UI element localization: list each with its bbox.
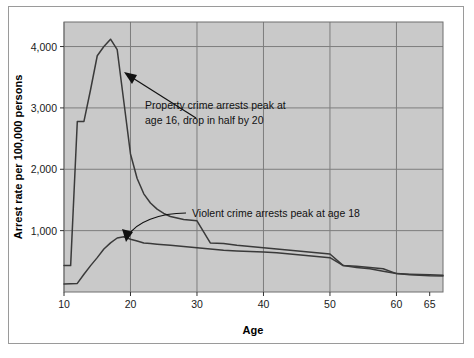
y-tick-label-4000: 4,000 — [31, 41, 57, 53]
x-tick-label-40: 40 — [258, 298, 270, 310]
x-tick-label-30: 30 — [191, 298, 203, 310]
x-tick-label-60: 60 — [391, 298, 403, 310]
y-axis-tick-labels: 1,0002,0003,0004,000 — [31, 41, 64, 237]
y-tick-label-3000: 3,000 — [31, 102, 57, 114]
x-axis-title: Age — [243, 324, 264, 336]
y-tick-label-2000: 2,000 — [31, 163, 57, 175]
x-tick-label-10: 10 — [58, 298, 70, 310]
property-annotation-line1: Property crime arrests peak at — [145, 99, 286, 111]
x-axis-tick-labels: 10203040506065 — [58, 292, 436, 310]
property-annotation-line2: age 16, drop in half by 20 — [145, 114, 264, 126]
violent-annotation-line1: Violent crime arrests peak at age 18 — [192, 207, 360, 219]
y-tick-label-1000: 1,000 — [31, 225, 57, 237]
y-axis-title: Arrest rate per 100,000 persons — [12, 75, 24, 239]
x-tick-label-20: 20 — [125, 298, 137, 310]
x-tick-label-50: 50 — [324, 298, 336, 310]
chart-figure: 1,0002,0003,0004,000 10203040506065 Arre… — [0, 0, 474, 358]
arrest-rate-by-age-chart: 1,0002,0003,0004,000 10203040506065 Arre… — [0, 0, 474, 358]
x-tick-label-65: 65 — [424, 298, 436, 310]
